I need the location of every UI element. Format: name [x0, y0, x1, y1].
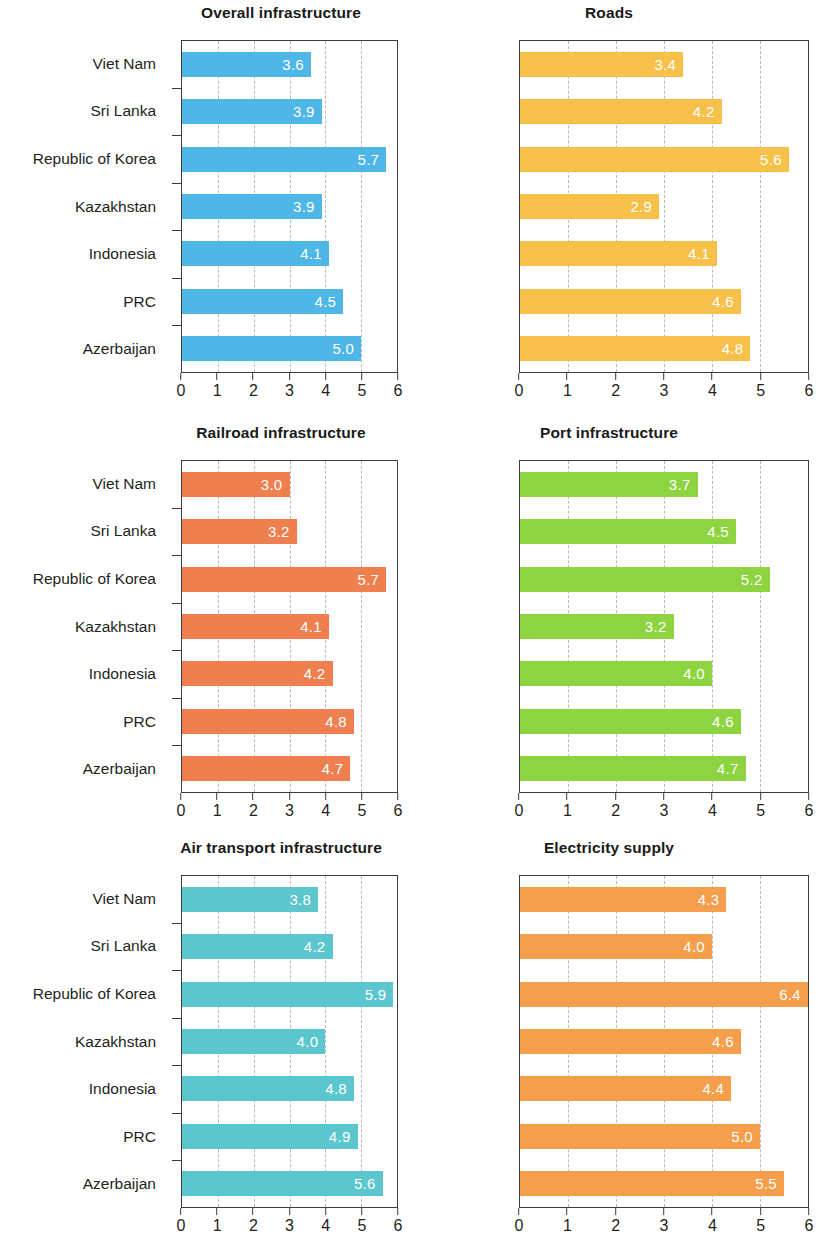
bar-value-label: 4.8 — [325, 1080, 354, 1097]
bar-slot: 4.4 — [520, 1065, 808, 1112]
category-tick — [172, 1113, 181, 1114]
bar-series: 3.84.25.94.04.84.95.6 — [182, 876, 397, 1207]
x-axis-tick — [712, 373, 713, 380]
plot-area: 3.74.55.23.24.04.64.7 — [519, 460, 809, 793]
bar-value-label: 5.0 — [731, 1128, 760, 1145]
category-tick — [172, 508, 181, 509]
x-axis-tick — [663, 1208, 664, 1215]
bar-slot: 5.7 — [182, 136, 397, 183]
bar-value-label: 4.4 — [702, 1080, 731, 1097]
bar-value-label: 4.6 — [712, 293, 741, 310]
category-tick — [172, 970, 181, 971]
x-axis-tick-label: 3 — [285, 382, 294, 400]
category-tick-marks — [172, 460, 181, 793]
x-axis-tick — [397, 793, 398, 800]
x-axis-tick — [253, 793, 254, 800]
x-axis-tick-label: 1 — [213, 382, 222, 400]
bar: 3.2 — [520, 614, 674, 639]
bar-slot: 3.4 — [520, 41, 808, 88]
x-axis-tick-label: 5 — [357, 382, 366, 400]
category-tick — [172, 698, 181, 699]
bar-value-label: 3.0 — [261, 476, 290, 493]
x-axis-tick-label: 2 — [611, 802, 620, 820]
bar-slot: 5.9 — [182, 971, 397, 1018]
bar: 3.6 — [182, 52, 311, 77]
x-axis-tick-label: 2 — [611, 382, 620, 400]
bar-slot: 4.5 — [520, 508, 808, 555]
x-axis-tick-label: 4 — [708, 1217, 717, 1235]
bar-value-label: 5.6 — [760, 151, 789, 168]
x-axis-tick — [663, 793, 664, 800]
bar: 3.8 — [182, 887, 318, 912]
x-axis-tick — [712, 793, 713, 800]
x-axis-tick-label: 6 — [394, 802, 403, 820]
bar: 5.5 — [520, 1171, 784, 1196]
x-axis-tick-label: 1 — [563, 382, 572, 400]
bar-slot: 6.4 — [520, 971, 808, 1018]
bar-slot: 4.1 — [182, 603, 397, 650]
x-axis-tick — [808, 1208, 809, 1215]
x-axis-tick — [760, 1208, 761, 1215]
bar-slot: 5.5 — [520, 1160, 808, 1207]
bar-value-label: 3.2 — [268, 523, 297, 540]
x-axis-tick — [216, 373, 217, 380]
plot-area: 3.44.25.62.94.14.64.8 — [519, 40, 809, 373]
bar-value-label: 3.9 — [293, 198, 322, 215]
category-label: Sri Lanka — [0, 88, 168, 136]
bar-slot: 4.2 — [182, 923, 397, 970]
chart-panel-air-transport-infrastructure: Air transport infrastructure Viet NamSri… — [0, 835, 412, 1245]
bar: 4.0 — [182, 1029, 325, 1054]
bar: 5.2 — [520, 567, 770, 592]
category-tick — [172, 1065, 181, 1066]
bar-series: 4.34.06.44.64.45.05.5 — [520, 876, 808, 1207]
category-tick — [172, 88, 181, 89]
x-axis-tick-label: 2 — [249, 802, 258, 820]
x-axis-tick — [808, 373, 809, 380]
bar: 4.2 — [182, 661, 333, 686]
category-label: Viet Nam — [0, 460, 168, 508]
category-label: PRC — [0, 1113, 168, 1161]
x-axis-tick-label: 3 — [285, 1217, 294, 1235]
bar: 5.7 — [182, 567, 386, 592]
bar: 3.0 — [182, 472, 290, 497]
bar-slot: 3.8 — [182, 876, 397, 923]
bar-series: 3.74.55.23.24.04.64.7 — [520, 461, 808, 792]
category-label: Kazakhstan — [0, 183, 168, 231]
x-axis-tick — [325, 373, 326, 380]
bar-value-label: 5.6 — [354, 1175, 383, 1192]
x-axis-tick-label: 0 — [515, 802, 524, 820]
category-tick — [172, 745, 181, 746]
bar-slot: 5.6 — [520, 136, 808, 183]
bar-value-label: 4.1 — [300, 245, 329, 262]
x-axis-tick-label: 0 — [177, 382, 186, 400]
bar-slot: 5.0 — [182, 325, 397, 372]
bar: 4.6 — [520, 289, 741, 314]
x-axis-tick-label: 1 — [213, 1217, 222, 1235]
bar: 4.8 — [182, 1076, 354, 1101]
bar-slot: 4.8 — [182, 697, 397, 744]
bar-value-label: 6.4 — [779, 986, 808, 1003]
category-label: Indonesia — [0, 1065, 168, 1113]
x-axis-tick — [216, 793, 217, 800]
bar-value-label: 5.7 — [357, 571, 386, 588]
bar-value-label: 4.1 — [300, 618, 329, 635]
x-axis-tick-label: 2 — [611, 1217, 620, 1235]
chart-title: Overall infrastructure — [0, 4, 412, 22]
bar: 3.7 — [520, 472, 698, 497]
bar-slot: 3.6 — [182, 41, 397, 88]
bar: 3.9 — [182, 194, 322, 219]
x-axis-tick — [289, 373, 290, 380]
bar-slot: 4.3 — [520, 876, 808, 923]
category-tick — [172, 230, 181, 231]
bar-value-label: 4.0 — [297, 1033, 326, 1050]
x-axis: 0123456 — [181, 793, 398, 827]
chart-panel-railroad-infrastructure: Railroad infrastructure Viet NamSri Lank… — [0, 420, 412, 835]
bar-value-label: 5.5 — [755, 1175, 784, 1192]
category-tick — [172, 278, 181, 279]
x-axis-tick — [289, 1208, 290, 1215]
bar-slot: 3.9 — [182, 88, 397, 135]
chart-panel-roads: Roads Viet NamSri LankaRepublic of Korea… — [412, 0, 824, 420]
x-axis-tick-label: 1 — [213, 802, 222, 820]
x-axis-tick-label: 0 — [177, 1217, 186, 1235]
bar-slot: 3.7 — [520, 461, 808, 508]
